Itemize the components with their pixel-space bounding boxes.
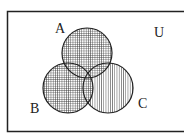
set-a-label: A bbox=[55, 21, 66, 36]
set-c-label: C bbox=[138, 96, 147, 111]
set-b-label: B bbox=[30, 101, 39, 116]
universe-label: U bbox=[154, 25, 164, 40]
venn-diagram: A B C U bbox=[0, 0, 184, 138]
